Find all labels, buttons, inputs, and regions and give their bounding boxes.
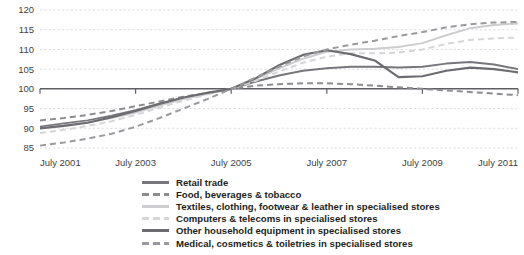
- x-axis-tick-labels: July 2001July 2003July 2005July 2007July…: [40, 157, 518, 168]
- svg-text:July 2005: July 2005: [211, 157, 252, 168]
- line-chart: 859095100105110115120 July 2001July 2003…: [0, 0, 524, 255]
- svg-text:100: 100: [18, 83, 34, 94]
- chart-legend: Retail trade Food, beverages & tobacco T…: [0, 176, 524, 255]
- svg-text:120: 120: [18, 4, 34, 15]
- svg-text:90: 90: [23, 123, 34, 134]
- legend-item: Medical, cosmetics & toiletries in speci…: [0, 237, 524, 249]
- chart-plot-area: 859095100105110115120 July 2001July 2003…: [0, 0, 524, 175]
- legend-swatch-icon: [142, 225, 169, 236]
- svg-text:110: 110: [19, 44, 34, 55]
- legend-item-label: Computers & telecoms in specialised stor…: [176, 213, 378, 224]
- svg-text:July 2007: July 2007: [306, 157, 347, 168]
- legend-item: Other household equipment in specialised…: [0, 225, 524, 237]
- legend-item: Retail trade: [0, 176, 524, 188]
- svg-text:95: 95: [23, 103, 34, 114]
- legend-item-label: Textiles, clothing, footwear & leather i…: [176, 201, 440, 212]
- svg-text:July 2003: July 2003: [115, 157, 156, 168]
- legend-item-label: Food, beverages & tobacco: [176, 189, 301, 200]
- legend-swatch-icon: [142, 213, 169, 224]
- svg-text:July 2009: July 2009: [402, 157, 443, 168]
- svg-text:July 2001: July 2001: [40, 157, 81, 168]
- legend-swatch-icon: [142, 201, 169, 212]
- legend-item-label: Retail trade: [176, 177, 228, 188]
- legend-item-label: Medical, cosmetics & toiletries in speci…: [176, 238, 413, 249]
- legend-item: Textiles, clothing, footwear & leather i…: [0, 200, 524, 212]
- y-axis-tick-labels: 859095100105110115120: [18, 4, 34, 153]
- legend-swatch-icon: [142, 189, 169, 200]
- legend-list: Retail trade Food, beverages & tobacco T…: [0, 176, 524, 249]
- legend-swatch-icon: [142, 238, 169, 249]
- svg-text:85: 85: [23, 142, 34, 153]
- legend-swatch-icon: [142, 177, 169, 188]
- legend-item: Food, beverages & tobacco: [0, 188, 524, 200]
- data-series: [40, 22, 518, 146]
- svg-text:105: 105: [18, 64, 34, 75]
- svg-text:July 2011: July 2011: [478, 157, 518, 168]
- legend-item: Computers & telecoms in specialised stor…: [0, 213, 524, 225]
- svg-text:115: 115: [19, 24, 34, 35]
- legend-item-label: Other household equipment in specialised…: [176, 225, 401, 236]
- gridlines: [40, 10, 518, 148]
